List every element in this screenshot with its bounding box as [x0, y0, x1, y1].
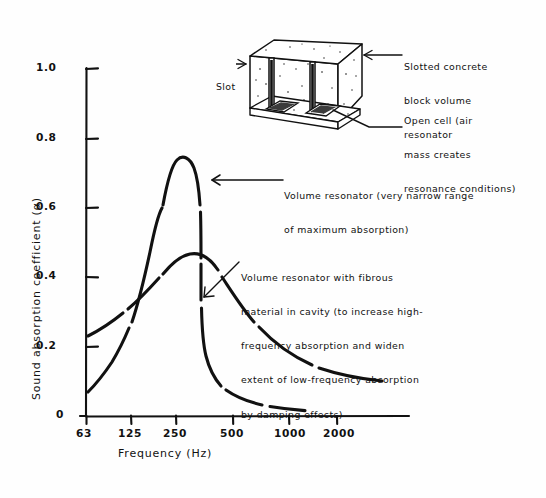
callout-open-cell-line-2: mass creates	[404, 149, 516, 160]
x-tick-label-125: 125	[118, 427, 142, 439]
annotation-fibrous-line-3: frequency absorption and widen	[241, 340, 423, 351]
annotation-fibrous-line-5: by damping effects)	[241, 409, 423, 420]
annotation-fibrous-resonator: Volume resonator with fibrous material i…	[241, 249, 423, 443]
callout-open-cell-line-1: Open cell (air	[404, 115, 516, 126]
x-tick-label-63: 63	[76, 427, 92, 439]
annotation-volume-resonator-line-2: of maximum absorption)	[284, 224, 474, 235]
leader-slot	[236, 60, 246, 69]
callout-open-cell: Open cell (air mass creates resonance co…	[404, 92, 516, 217]
callout-open-cell-line-3: resonance conditions)	[404, 183, 516, 194]
leader-fibrous-curve	[204, 262, 239, 297]
annotation-fibrous-line-1: Volume resonator with fibrous	[241, 272, 423, 283]
y-axis-title: Sound absorption coefficient (α)	[30, 197, 43, 400]
annotation-fibrous-line-4: extent of low-frequency absorption	[241, 374, 423, 385]
leader-block	[364, 51, 402, 60]
annotation-fibrous-line-2: material in cavity (to increase high-	[241, 306, 423, 317]
y-axis-line	[86, 68, 87, 416]
y-tick-label-1.0: 1.0	[36, 61, 57, 73]
slot-right	[310, 62, 315, 112]
callout-slot: Slot	[216, 58, 236, 115]
y-tick-label-0.8: 0.8	[36, 131, 57, 143]
y-axis-ticks	[80, 68, 98, 416]
callout-slot-label: Slot	[216, 81, 236, 92]
x-tick-label-250: 250	[163, 427, 187, 439]
leader-narrow-peak	[212, 175, 283, 185]
y-tick-label-0: 0	[56, 408, 64, 420]
callout-block-line-1: Slotted concrete	[404, 61, 488, 72]
x-axis-title: Frequency (Hz)	[118, 447, 212, 460]
slot-left	[269, 58, 274, 108]
figure-canvas: 1.0 0.8 0.6 0.4 0.2 0 63 125 250 500 100…	[0, 0, 546, 498]
